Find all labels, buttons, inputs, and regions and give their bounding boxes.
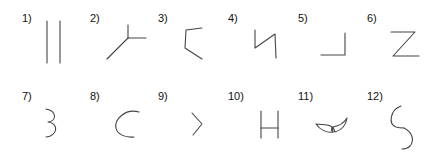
- figures-canvas: [0, 0, 439, 156]
- s-curve-icon: [391, 106, 412, 149]
- right-angle-icon: [321, 33, 345, 55]
- bracket-angle-icon: [185, 28, 202, 59]
- y-junction-icon: [107, 25, 146, 59]
- letter-z-icon: [391, 32, 419, 56]
- letter-h-icon: [261, 111, 278, 138]
- horn-crescent-icon: [316, 118, 347, 132]
- number-3-icon: [46, 109, 56, 137]
- chevron-right-icon: [192, 113, 202, 135]
- zigzag-n-icon: [255, 30, 276, 58]
- open-arc-icon: [116, 111, 139, 137]
- two-parallel-lines-icon: [47, 21, 60, 63]
